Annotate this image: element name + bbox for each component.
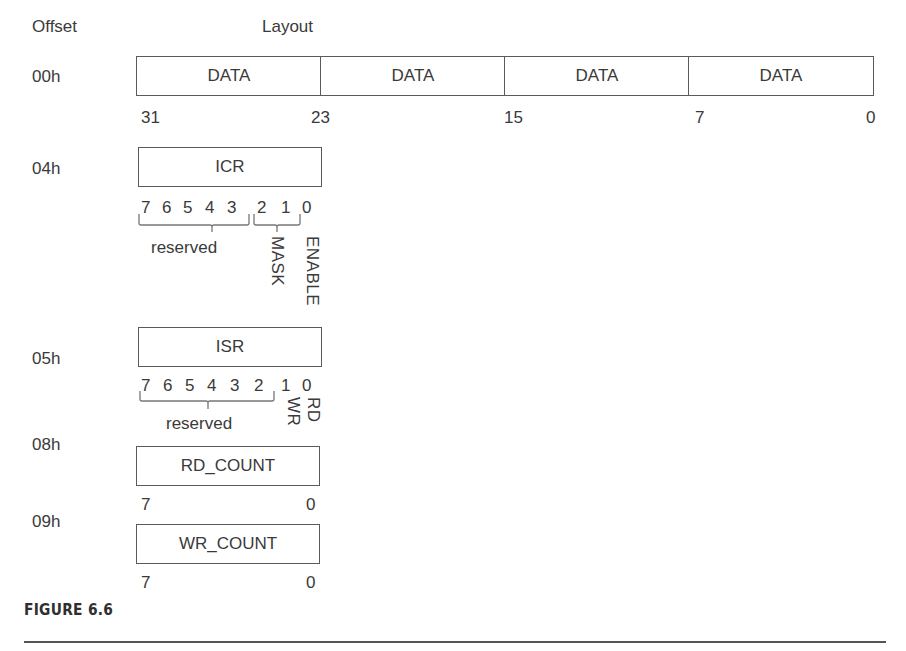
- offset-09h: 09h: [32, 512, 60, 532]
- isr-rd-label: RD: [304, 397, 322, 423]
- offset-08h: 08h: [32, 435, 60, 455]
- rd-count-register: RD_COUNT: [136, 446, 320, 486]
- isr-reserved-label: reserved: [166, 414, 232, 434]
- caption-rule: [24, 641, 886, 643]
- rd-count-lsb: 0: [306, 495, 315, 515]
- wr-count-lsb: 0: [306, 573, 315, 593]
- wr-count-msb: 7: [141, 573, 150, 593]
- figure-caption: FIGURE 6.6: [24, 601, 113, 619]
- wr-count-register: WR_COUNT: [136, 524, 320, 564]
- rd-count-msb: 7: [141, 495, 150, 515]
- isr-wr-label: WR: [284, 397, 302, 426]
